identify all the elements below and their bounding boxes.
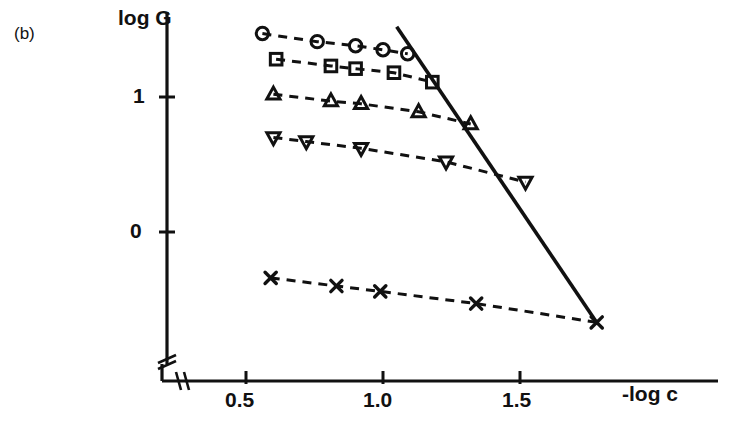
series-crosses	[265, 272, 602, 328]
marker-triangle-up	[267, 87, 280, 99]
series-line-triangles-up	[273, 94, 470, 124]
series-line-crosses	[271, 278, 597, 323]
series-line-envelope	[397, 27, 597, 323]
marker-triangle-down	[519, 177, 532, 189]
marker-triangle-up	[324, 94, 337, 106]
marker-triangle-down	[439, 157, 452, 169]
series-triangles-up	[267, 87, 477, 129]
series-triangles-down	[267, 133, 532, 190]
series-circles	[256, 27, 414, 60]
figure-panel-b: (b) log G -log c 1 0 0.5 1.0 1.5	[0, 0, 737, 436]
data-series-layer	[256, 27, 602, 328]
series-envelope	[397, 27, 597, 323]
plot-area	[0, 0, 737, 436]
